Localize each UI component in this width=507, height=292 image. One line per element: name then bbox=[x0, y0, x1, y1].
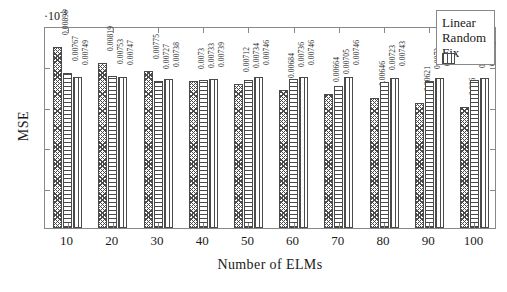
bar-random-40 bbox=[199, 80, 208, 228]
x-tick-mark bbox=[339, 223, 340, 228]
bar-value-label: 0.00743 bbox=[398, 41, 407, 66]
x-tick-mark-top bbox=[429, 28, 430, 33]
x-tick-mark bbox=[248, 223, 249, 228]
x-tick-label-80: 80 bbox=[363, 233, 403, 249]
legend-swatch-fix bbox=[442, 53, 455, 64]
bar-random-80 bbox=[380, 82, 389, 228]
bar-linear-50 bbox=[234, 84, 243, 228]
y-tick-mark-right bbox=[490, 190, 495, 191]
x-tick-mark-top bbox=[158, 28, 159, 33]
bar-linear-30 bbox=[144, 71, 153, 228]
bar-group: 0.008980.007670.00749 bbox=[53, 28, 82, 228]
x-tick-mark bbox=[384, 223, 385, 228]
legend-entry-fix: Fix bbox=[442, 45, 486, 60]
bar-group: 0.008190.007530.00747 bbox=[98, 28, 127, 228]
chart-legend: Linear Random Fix bbox=[436, 10, 495, 65]
bar-linear-100 bbox=[460, 107, 469, 228]
y-tick-mark bbox=[45, 109, 50, 110]
mse-bar-chart-figure: MSE ·10-3 0.008980.007670.007490.008190.… bbox=[0, 0, 507, 292]
bar-value-label: 0.00723 bbox=[388, 45, 397, 70]
bar-value-label: 0.00753 bbox=[116, 39, 125, 64]
bar-linear-60 bbox=[279, 90, 288, 228]
x-tick-label-50: 50 bbox=[227, 233, 267, 249]
bar-group: 0.00730.007330.00739 bbox=[189, 28, 218, 228]
x-tick-mark bbox=[294, 223, 295, 228]
bar-value-label: 0.00705 bbox=[342, 49, 351, 74]
y-tick-mark-right bbox=[490, 149, 495, 150]
x-tick-mark bbox=[113, 223, 114, 228]
bar-random-30 bbox=[154, 81, 163, 228]
y-axis-label: MSE bbox=[16, 86, 32, 166]
x-tick-mark bbox=[429, 223, 430, 228]
bar-random-70 bbox=[334, 86, 343, 228]
bar-value-label: 0.00684 bbox=[287, 53, 296, 78]
bar-value-label: 0.00767 bbox=[71, 36, 80, 61]
bar-value-label: 0.00727 bbox=[162, 44, 171, 69]
bar-group: 0.006460.007230.00743 bbox=[370, 28, 399, 228]
x-tick-label-90: 90 bbox=[408, 233, 448, 249]
bar-fix-100 bbox=[480, 78, 489, 228]
legend-entry-linear: Linear bbox=[442, 15, 486, 30]
bar-value-label: 0.00736 bbox=[297, 42, 306, 67]
bar-value-label: 0.00664 bbox=[332, 57, 341, 82]
bar-group: 0.007120.007340.00746 bbox=[234, 28, 263, 228]
x-tick-mark-top bbox=[203, 28, 204, 33]
bar-group: 0.006840.007360.00746 bbox=[279, 28, 308, 228]
bar-group: 0.007750.007270.00738 bbox=[144, 28, 173, 228]
y-axis-multiplier-base: ·10 bbox=[44, 9, 60, 23]
y-tick-mark bbox=[45, 190, 50, 191]
bar-linear-20 bbox=[98, 63, 107, 228]
y-tick-mark-right bbox=[490, 109, 495, 110]
plot-area: 0.008980.007670.007490.008190.007530.007… bbox=[44, 27, 496, 229]
x-tick-mark bbox=[203, 223, 204, 228]
x-tick-label-40: 40 bbox=[182, 233, 222, 249]
bar-random-90 bbox=[425, 81, 434, 228]
bar-random-10 bbox=[63, 73, 72, 228]
x-tick-label-10: 10 bbox=[47, 233, 87, 249]
bar-value-label: 0.00898 bbox=[61, 10, 70, 35]
x-tick-mark bbox=[474, 223, 475, 228]
bar-value-label: 0.00733 bbox=[207, 43, 216, 68]
legend-label-random: Random bbox=[442, 31, 486, 44]
bar-value-label: 0.00738 bbox=[172, 42, 181, 67]
bar-fix-70 bbox=[344, 77, 353, 228]
x-tick-label-100: 100 bbox=[453, 233, 493, 249]
bar-value-label: 0.0073 bbox=[197, 47, 206, 68]
bar-random-50 bbox=[244, 80, 253, 228]
bar-fix-60 bbox=[299, 77, 308, 228]
x-tick-mark-top bbox=[384, 28, 385, 33]
bar-random-20 bbox=[108, 76, 117, 228]
bar-fix-30 bbox=[164, 79, 173, 228]
x-tick-label-30: 30 bbox=[137, 233, 177, 249]
bar-value-label: 0.00819 bbox=[106, 25, 115, 50]
bar-linear-80 bbox=[370, 98, 379, 228]
bar-value-label: 0.00746 bbox=[307, 40, 316, 65]
x-tick-mark-top bbox=[294, 28, 295, 33]
bar-fix-50 bbox=[254, 77, 263, 228]
bar-fix-90 bbox=[435, 78, 444, 228]
bar-fix-80 bbox=[390, 78, 399, 228]
x-tick-label-70: 70 bbox=[318, 233, 358, 249]
bar-value-label: 0.00734 bbox=[252, 43, 261, 68]
x-axis-label: Number of ELMs bbox=[44, 257, 496, 273]
bar-value-label: 0.00746 bbox=[262, 40, 271, 65]
bar-random-60 bbox=[289, 79, 298, 228]
bar-value-label: 0.00712 bbox=[242, 47, 251, 72]
bar-value-label: 0.00746 bbox=[352, 40, 361, 65]
bar-fix-40 bbox=[209, 79, 218, 228]
bar-value-label: 0.00739 bbox=[217, 42, 226, 67]
legend-entry-random: Random bbox=[442, 30, 486, 45]
bar-linear-40 bbox=[189, 81, 198, 228]
bar-value-label: 0.00749 bbox=[81, 40, 90, 65]
bar-linear-70 bbox=[324, 94, 333, 228]
x-tick-mark bbox=[158, 223, 159, 228]
y-tick-mark bbox=[45, 149, 50, 150]
y-tick-mark bbox=[45, 68, 50, 69]
bar-value-label: 0.00747 bbox=[126, 40, 135, 65]
x-tick-mark bbox=[68, 223, 69, 228]
x-tick-label-20: 20 bbox=[92, 233, 132, 249]
bar-value-label: 0.00775 bbox=[152, 34, 161, 59]
bar-group: 0.006640.007050.00746 bbox=[324, 28, 353, 228]
bar-random-100 bbox=[470, 80, 479, 228]
bar-fix-20 bbox=[118, 77, 127, 228]
